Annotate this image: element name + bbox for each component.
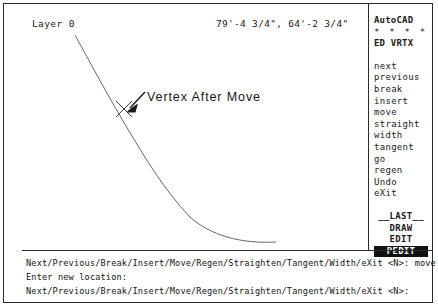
menu-item-edit[interactable]: EDIT [374, 234, 434, 246]
command-area-divider [22, 250, 432, 251]
menu-stars-separator[interactable]: * * * * [374, 27, 434, 39]
menu-item-straight[interactable]: straight [374, 119, 434, 131]
menu-item-last[interactable]: __LAST__ [374, 211, 434, 223]
menu-item-exit[interactable]: eXit [374, 188, 434, 200]
command-line-1: Next/Previous/Break/Insert/Move/Regen/St… [26, 256, 432, 270]
menu-item-insert[interactable]: insert [374, 96, 434, 108]
x-marker-icon [116, 101, 132, 117]
menu-item-width[interactable]: width [374, 130, 434, 142]
vertex-annotation-label: Vertex After Move [147, 90, 261, 104]
screen-menu-panel[interactable]: AutoCAD * * * * ED VRTX next previous br… [368, 4, 434, 250]
autocad-screen: Layer 0 79'-4 3/4", 64'-2 3/4" Vertex Af… [0, 0, 438, 307]
command-line-2: Enter new location: [26, 270, 432, 284]
menu-item-tangent[interactable]: tangent [374, 142, 434, 154]
menu-item-break[interactable]: break [374, 84, 434, 96]
menu-gap-bottom [374, 200, 434, 211]
menu-item-previous[interactable]: previous [374, 72, 434, 84]
menu-item-draw[interactable]: DRAW [374, 223, 434, 235]
menu-gap-top [374, 50, 434, 61]
menu-item-move[interactable]: move [374, 107, 434, 119]
command-prompt-area[interactable]: Next/Previous/Break/Insert/Move/Regen/St… [26, 256, 432, 298]
leader-arrow-icon [126, 92, 145, 113]
menu-item-regen[interactable]: regen [374, 165, 434, 177]
menu-item-go[interactable]: go [374, 154, 434, 166]
drawing-canvas[interactable]: Layer 0 79'-4 3/4", 64'-2 3/4" Vertex Af… [4, 4, 368, 250]
polyline-graphics [4, 4, 368, 250]
menu-item-undo[interactable]: Undo [374, 177, 434, 189]
menu-title-autocad[interactable]: AutoCAD [374, 15, 434, 27]
menu-item-next[interactable]: next [374, 61, 434, 73]
menu-mode-ed-vrtx[interactable]: ED VRTX [374, 38, 434, 50]
edited-polyline [75, 35, 276, 242]
command-line-3[interactable]: Next/Previous/Break/Insert/Move/Regen/St… [26, 284, 432, 298]
